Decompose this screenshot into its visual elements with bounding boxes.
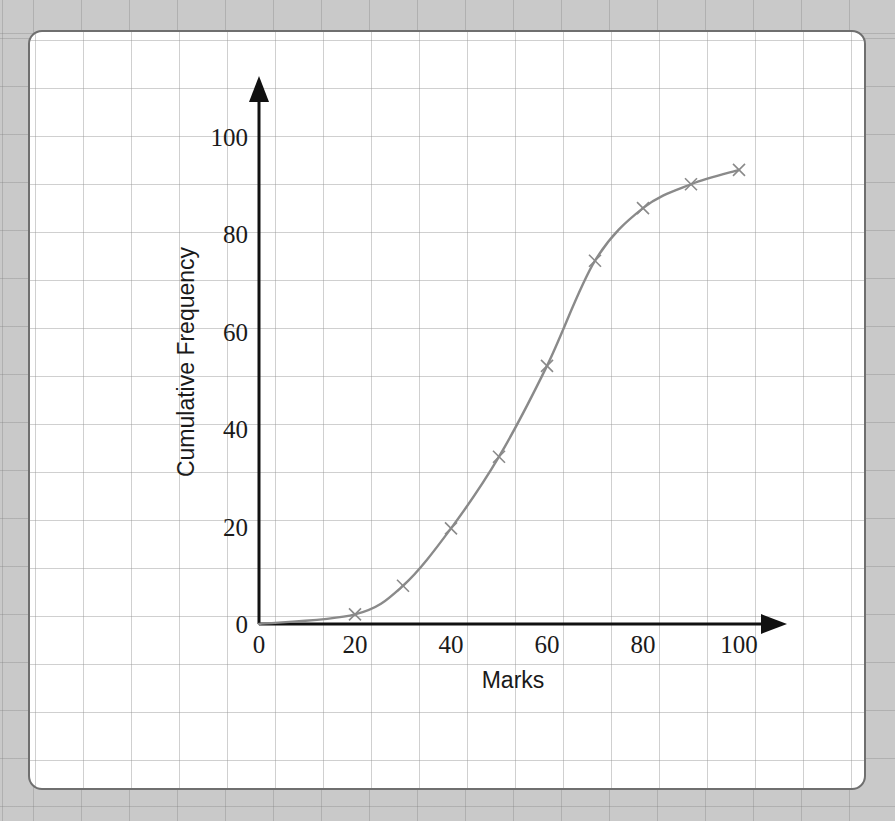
data-point-marker xyxy=(445,522,457,534)
y-tick-80: 80 xyxy=(223,221,248,248)
data-point-marker xyxy=(493,451,505,463)
x-tick-40: 40 xyxy=(439,631,464,658)
y-tick-40: 40 xyxy=(223,416,248,443)
y-tick-60: 60 xyxy=(223,319,248,346)
y-tick-0: 0 xyxy=(236,611,249,638)
x-tick-0: 0 xyxy=(253,631,266,658)
data-point-markers xyxy=(349,164,745,621)
y-axis xyxy=(249,76,269,624)
data-point-marker xyxy=(637,202,649,214)
y-axis-title: Cumulative Frequency xyxy=(173,246,199,477)
x-tick-100: 100 xyxy=(720,631,758,658)
x-tick-80: 80 xyxy=(631,631,656,658)
x-tick-labels: 0 20 40 60 80 100 xyxy=(253,631,758,658)
y-tick-labels: 0 20 40 60 80 100 xyxy=(211,124,249,638)
y-tick-100: 100 xyxy=(211,124,249,151)
cumulative-frequency-chart: 0 20 40 60 80 100 0 20 40 60 80 100 Mark… xyxy=(30,32,866,790)
cumulative-frequency-curve xyxy=(259,170,739,624)
x-axis-title: Marks xyxy=(482,667,545,693)
data-point-marker xyxy=(685,178,697,190)
data-point-marker xyxy=(541,360,553,372)
x-tick-20: 20 xyxy=(343,631,368,658)
chart-card: 0 20 40 60 80 100 0 20 40 60 80 100 Mark… xyxy=(28,30,866,790)
y-tick-20: 20 xyxy=(223,514,248,541)
data-point-marker xyxy=(589,255,601,267)
x-tick-60: 60 xyxy=(535,631,560,658)
data-point-marker xyxy=(397,580,409,592)
